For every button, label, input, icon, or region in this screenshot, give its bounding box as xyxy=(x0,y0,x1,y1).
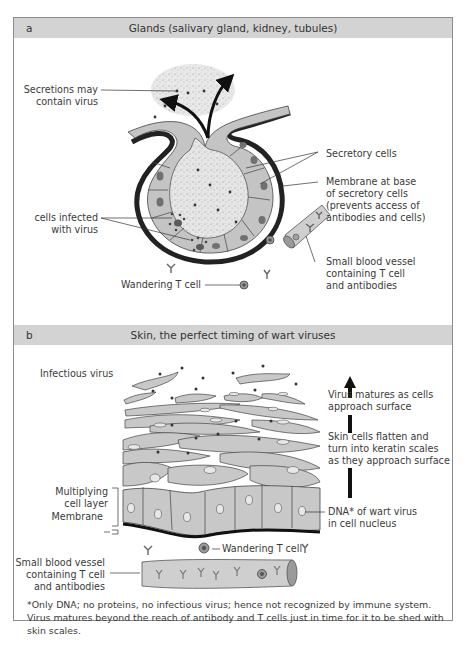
label-virus-matures: Virus matures as cells approach surface xyxy=(328,389,433,413)
label-wandering-t-cell-a: Wandering T cell xyxy=(121,279,201,291)
gland-illustration xyxy=(101,64,330,289)
gland-blood-vessel xyxy=(281,205,330,250)
secretion-cloud xyxy=(151,64,235,116)
label-blood-vessel-b: Small blood vessel containing T cell and… xyxy=(16,557,105,593)
label-skin-flatten: Skin cells flatten and turn into keratin… xyxy=(328,431,450,467)
label-dna: DNA* of wart virus in cell nucleus xyxy=(328,506,417,530)
label-membrane-b: Membrane xyxy=(52,511,103,523)
label-infected-cells: cells infected with virus xyxy=(34,212,98,236)
label-blood-vessel-a: Small blood vessel containing T cell and… xyxy=(326,256,415,292)
label-secretory-cells: Secretory cells xyxy=(326,148,397,160)
t-cells-b xyxy=(199,543,209,553)
skin-blood-vessel xyxy=(142,560,297,589)
label-secretions: Secretions may contain virus xyxy=(24,84,98,108)
label-membrane-a: Membrane at base of secretory cells (pre… xyxy=(326,176,425,224)
label-wandering-t-cell-b: Wandering T cell xyxy=(222,543,302,555)
label-infectious-virus: Infectious virus xyxy=(40,368,113,380)
label-multiplying-layer: Multiplying cell layer xyxy=(55,486,108,510)
footnote: *Only DNA; no proteins, no infectious vi… xyxy=(27,598,447,637)
